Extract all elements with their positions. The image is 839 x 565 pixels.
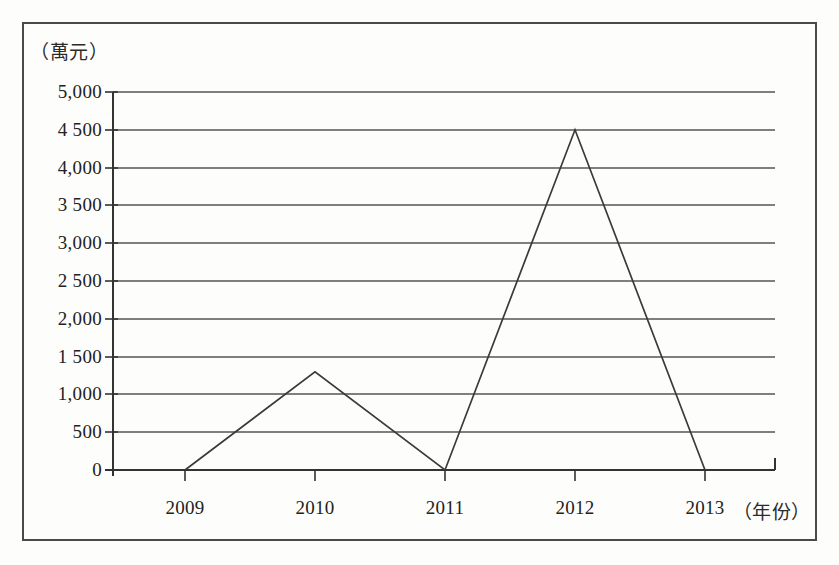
x-tick-label-2010: 2010 xyxy=(295,497,334,519)
data-series-line xyxy=(185,130,705,470)
x-tick-label-2011: 2011 xyxy=(426,497,465,519)
y-tick-label: 3,000 xyxy=(58,232,102,254)
y-axis-ticks xyxy=(105,92,118,470)
figure-container: （萬元） 5,000 4 500 4,000 3 500 3,000 2 500… xyxy=(0,0,839,565)
y-tick-label: 1 500 xyxy=(58,346,102,368)
chart-svg xyxy=(0,0,839,565)
y-tick-label: 3 500 xyxy=(58,194,102,216)
y-tick-label: 4,000 xyxy=(58,157,102,179)
x-tick-label-2012: 2012 xyxy=(555,497,594,519)
x-tick-label-2009: 2009 xyxy=(165,497,204,519)
y-tick-label: 500 xyxy=(73,421,102,443)
y-tick-label: 4 500 xyxy=(58,119,102,141)
y-tick-label: 2,000 xyxy=(58,308,102,330)
y-tick-label: 2 500 xyxy=(58,270,102,292)
y-tick-label: 0 xyxy=(92,459,102,481)
x-tick-label-2013: 2013 xyxy=(685,497,724,519)
gridlines xyxy=(113,92,775,432)
plot-area: 5,000 4 500 4,000 3 500 3,000 2 500 2,00… xyxy=(0,0,839,565)
y-tick-label: 5,000 xyxy=(58,81,102,103)
x-axis-ticks xyxy=(185,470,705,481)
y-tick-label: 1,000 xyxy=(58,383,102,405)
x-axis-title: （年份） xyxy=(733,497,810,524)
